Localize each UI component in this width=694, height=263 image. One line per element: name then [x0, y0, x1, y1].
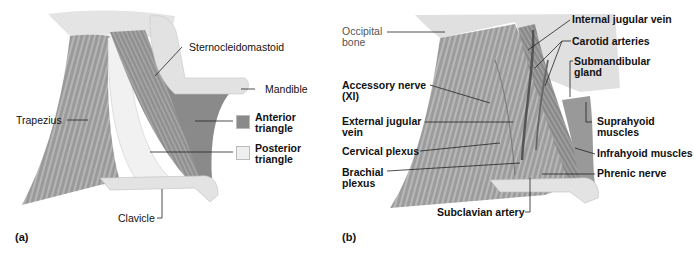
label-anterior-triangle: Anterior triangle: [255, 112, 296, 134]
label-trapezius: Trapezius: [16, 115, 62, 126]
label-external-jugular-vein: External jugular vein: [342, 116, 421, 138]
label-mandible: Mandible: [265, 84, 308, 95]
label-phrenic-nerve: Phrenic nerve: [597, 168, 666, 179]
label-subclavian-artery: Subclavian artery: [437, 207, 525, 218]
panel-a-neck-triangles: Sternocleidomastoid Mandible Trapezius A…: [0, 0, 330, 263]
mandible-bone: [150, 16, 249, 94]
panel-tag-b: (b): [342, 231, 356, 243]
clavicle-bone: [100, 176, 218, 202]
label-accessory-nerve: Accessory nerve (XI): [342, 80, 426, 102]
label-cervical-plexus: Cervical plexus: [342, 146, 419, 157]
label-infrahyoid-muscles: Infrahyoid muscles: [597, 148, 693, 159]
clavicle-bone: [490, 178, 598, 203]
label-posterior-triangle: Posterior triangle: [255, 143, 301, 165]
anterior-triangle-swatch: [236, 115, 250, 129]
panel-tag-a: (a): [15, 231, 28, 243]
panel-b-neck-structures: Occipital bone Accessory nerve (XI) Exte…: [330, 0, 694, 263]
label-internal-jugular-vein: Internal jugular vein: [572, 14, 672, 25]
label-sternocleidomastoid: Sternocleidomastoid: [189, 42, 284, 53]
posterior-triangle-swatch: [236, 146, 250, 160]
label-clavicle: Clavicle: [118, 213, 155, 224]
label-submandibular-gland: Submandibular gland: [574, 56, 650, 78]
label-carotid-arteries: Carotid arteries: [572, 36, 650, 47]
label-brachial-plexus: Brachial plexus: [342, 167, 383, 189]
label-occipital-bone: Occipital bone: [342, 26, 382, 48]
label-suprahyoid-muscles: Suprahyoid muscles: [597, 116, 655, 138]
